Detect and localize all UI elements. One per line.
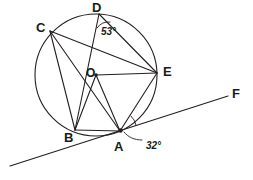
angle-label-53: 53° [101, 27, 116, 37]
label-point-f: F [232, 87, 240, 100]
radius-oa [96, 75, 120, 131]
geometry-figure: D C E B A F O 53° 32° [0, 0, 253, 180]
radius-ob [75, 75, 96, 130]
chord-ba [75, 130, 120, 131]
label-point-e: E [163, 65, 172, 78]
label-center-o: O [86, 67, 95, 79]
chord-cb [50, 31, 75, 130]
chord-ae [120, 73, 157, 131]
angle-label-32: 32° [146, 141, 161, 151]
label-point-d: D [92, 1, 101, 14]
label-point-a: A [114, 140, 123, 153]
vertex-dot-a [118, 128, 122, 132]
radius-oe [96, 73, 157, 75]
label-point-c: C [36, 21, 45, 34]
label-point-b: B [64, 131, 73, 144]
chord-ca [50, 31, 120, 131]
chord-ce [50, 31, 157, 73]
leader-line-32 [124, 132, 142, 140]
